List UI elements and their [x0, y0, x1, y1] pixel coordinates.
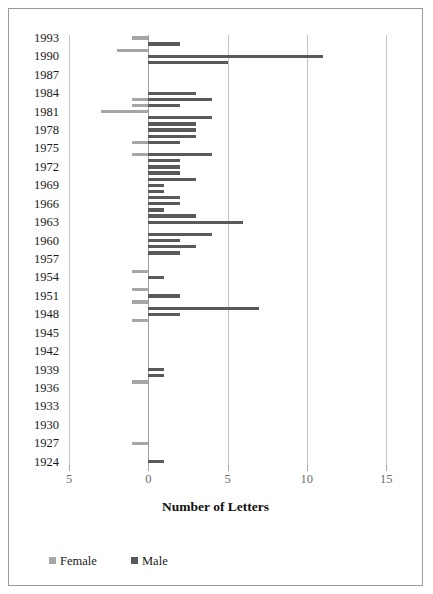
bar-male	[148, 196, 180, 199]
x-tick	[307, 465, 308, 471]
bar-male	[148, 239, 180, 242]
y-axis-label: 1960	[34, 235, 59, 248]
bar-female	[132, 270, 148, 273]
male-swatch-icon	[131, 557, 138, 564]
bar-male	[148, 55, 322, 58]
bar-male	[148, 159, 180, 162]
y-axis-label: 1942	[34, 345, 59, 358]
bar-female	[132, 104, 148, 107]
bar-male	[148, 307, 259, 310]
y-axis-label: 1981	[34, 106, 59, 119]
x-tick-label: 5	[49, 472, 89, 487]
bar-male	[148, 128, 196, 131]
x-tick-label: 0	[128, 472, 168, 487]
bar-female	[132, 442, 148, 445]
chart-figure: 1993199019871984198119781975197219691966…	[8, 8, 423, 586]
y-axis-label: 1978	[34, 124, 59, 137]
y-axis-label: 1945	[34, 327, 59, 340]
bar-male	[148, 190, 164, 193]
x-tick	[148, 465, 149, 471]
x-tick-label: 5	[208, 472, 248, 487]
y-axis-label: 1975	[34, 142, 59, 155]
y-axis-label: 1957	[34, 253, 59, 266]
bar-male	[148, 374, 164, 377]
bar-male	[148, 98, 211, 101]
y-axis-label: 1972	[34, 161, 59, 174]
y-axis-label: 1948	[34, 308, 59, 321]
y-axis-label: 1966	[34, 198, 59, 211]
bar-male	[148, 171, 180, 174]
legend-item-male: Male	[131, 554, 168, 569]
bar-male	[148, 368, 164, 371]
bar-male	[148, 294, 180, 297]
bar-female	[132, 98, 148, 101]
x-tick	[69, 465, 70, 471]
bar-female	[132, 141, 148, 144]
bar-male	[148, 165, 180, 168]
bar-male	[148, 184, 164, 187]
x-tick-label: 15	[366, 472, 406, 487]
bar-male	[148, 313, 180, 316]
bar-female	[132, 319, 148, 322]
legend-label-female: Female	[60, 554, 97, 568]
x-tick	[386, 465, 387, 471]
bar-female	[132, 153, 148, 156]
bar-male	[148, 233, 211, 236]
bar-male	[148, 104, 180, 107]
bar-male	[148, 153, 211, 156]
y-axis-label: 1984	[34, 87, 59, 100]
bar-male	[148, 122, 196, 125]
bar-male	[148, 276, 164, 279]
y-axis-label: 1924	[34, 456, 59, 469]
bar-male	[148, 135, 196, 138]
bar-male	[148, 251, 180, 254]
bar-female	[132, 380, 148, 383]
bar-male	[148, 245, 196, 248]
y-axis-label: 1930	[34, 419, 59, 432]
y-axis-label: 1936	[34, 382, 59, 395]
bar-male	[148, 214, 196, 217]
y-axis-label: 1963	[34, 216, 59, 229]
y-axis-label: 1951	[34, 290, 59, 303]
bar-male	[148, 116, 211, 119]
bar-male	[148, 178, 196, 181]
x-tick	[228, 465, 229, 471]
y-axis-label: 1939	[34, 364, 59, 377]
bar-male	[148, 460, 164, 463]
bar-male	[148, 208, 164, 211]
bar-male	[148, 42, 180, 45]
bar-female	[117, 49, 149, 52]
x-tick-label: 10	[287, 472, 327, 487]
y-axis-label: 1933	[34, 400, 59, 413]
bar-male	[148, 221, 243, 224]
bar-female	[132, 36, 148, 39]
bar-female	[132, 300, 148, 303]
female-swatch-icon	[49, 557, 56, 564]
chart-legend: Female Male	[9, 554, 422, 572]
legend-item-female: Female	[49, 554, 97, 569]
bar-female	[132, 288, 148, 291]
x-axis-title: Number of Letters	[9, 499, 422, 515]
bar-male	[148, 92, 196, 95]
bar-female	[101, 110, 149, 113]
legend-label-male: Male	[142, 554, 168, 568]
bar-male	[148, 61, 227, 64]
y-axis-label: 1993	[34, 32, 59, 45]
y-axis-label: 1990	[34, 50, 59, 63]
y-axis-label: 1954	[34, 271, 59, 284]
y-axis-label: 1969	[34, 179, 59, 192]
plot-area	[69, 35, 402, 465]
x-axis-tick-labels: 5051015	[9, 472, 424, 492]
y-axis-labels: 1993199019871984198119781975197219691966…	[9, 35, 65, 465]
bar-male	[148, 202, 180, 205]
bar-male	[148, 141, 180, 144]
y-axis-label: 1987	[34, 69, 59, 82]
y-axis-label: 1927	[34, 437, 59, 450]
